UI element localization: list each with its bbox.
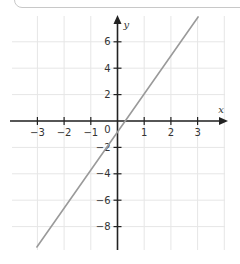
- origin-label: 0: [104, 124, 110, 135]
- x-tick-label: −1: [83, 127, 98, 138]
- y-tick-label: −4: [96, 168, 111, 179]
- y-tick-label: −6: [96, 195, 111, 206]
- x-tick-label: 3: [194, 127, 200, 138]
- x-axis-arrow-icon: [219, 117, 228, 125]
- y-tick-label: 4: [104, 63, 110, 74]
- y-axis-label: y: [123, 19, 130, 30]
- y-tick-label: 6: [104, 36, 110, 47]
- y-tick-label: −8: [96, 221, 111, 232]
- x-tick-label: 2: [168, 127, 174, 138]
- x-tick-label: 1: [141, 127, 147, 138]
- coordinate-plane: −3−2−1123−8−6−4−22460xy: [0, 0, 240, 264]
- y-tick-label: 2: [104, 89, 110, 100]
- x-tick-label: −3: [30, 127, 45, 138]
- x-axis-label: x: [218, 104, 224, 115]
- y-axis-arrow-icon: [114, 15, 122, 24]
- x-tick-label: −2: [57, 127, 72, 138]
